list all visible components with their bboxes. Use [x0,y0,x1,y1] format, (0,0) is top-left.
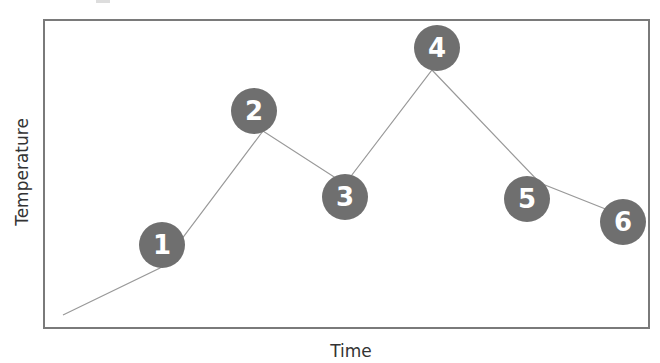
x-axis-label: Time [330,341,372,361]
point-marker-1: 1 [139,222,185,268]
point-marker-4: 4 [414,25,460,71]
point-marker-3: 3 [322,174,368,220]
temperature-time-chart: 123456 Temperature Time [0,0,660,363]
point-marker-6: 6 [600,199,646,245]
point-marker-2: 2 [231,88,277,134]
y-axis-label: Temperature [12,118,32,226]
point-marker-5: 5 [504,176,550,222]
